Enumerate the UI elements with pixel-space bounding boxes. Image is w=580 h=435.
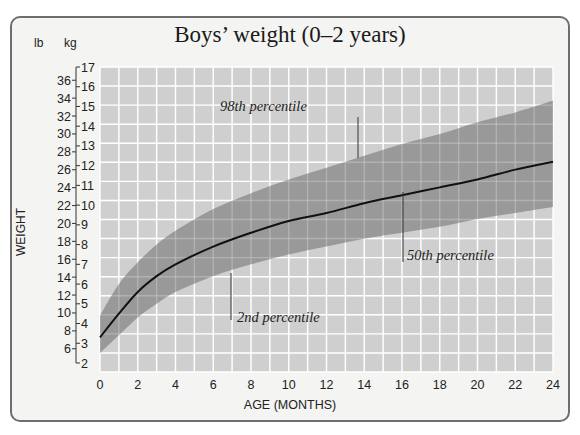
- y-tick-lb: 16: [57, 253, 71, 267]
- x-tick: 14: [357, 378, 371, 392]
- y-tick-kg: 8: [81, 238, 88, 252]
- y-tick-lb: 28: [57, 145, 71, 159]
- y-tick-lb: 6: [64, 342, 71, 356]
- y-tick-lb: 26: [57, 163, 71, 177]
- y-axis: 2345678910111213141516176810121416182022…: [57, 61, 95, 371]
- x-tick: 22: [508, 378, 522, 392]
- y-tick-lb: 12: [57, 289, 71, 303]
- y-tick-kg: 9: [81, 218, 88, 232]
- y-tick-lb: 20: [57, 217, 71, 231]
- y-tick-kg: 2: [81, 357, 88, 371]
- x-tick: 12: [320, 378, 334, 392]
- y-axis-title: WEIGHT: [14, 197, 28, 267]
- y-tick-kg: 5: [81, 297, 88, 311]
- unit-lb-label: lb: [34, 36, 43, 50]
- y-tick-lb: 30: [57, 127, 71, 141]
- y-tick-kg: 4: [81, 317, 88, 331]
- y-tick-lb: 10: [57, 306, 71, 320]
- chart-title: Boys’ weight (0–2 years): [0, 22, 580, 48]
- y-tick-lb: 36: [57, 74, 71, 88]
- x-tick: 6: [210, 378, 217, 392]
- p98-label: 98th percentile: [220, 98, 307, 114]
- y-tick-kg: 7: [81, 258, 88, 272]
- y-tick-kg: 17: [81, 61, 95, 75]
- y-tick-kg: 14: [81, 120, 95, 134]
- growth-chart: 2345678910111213141516176810121416182022…: [0, 0, 580, 435]
- x-tick: 10: [282, 378, 296, 392]
- y-tick-lb: 14: [57, 271, 71, 285]
- y-tick-kg: 3: [81, 337, 88, 351]
- y-tick-lb: 32: [57, 110, 71, 124]
- y-tick-lb: 24: [57, 181, 71, 195]
- x-axis: 024681012141618202224: [97, 378, 560, 392]
- x-tick: 18: [433, 378, 447, 392]
- y-tick-kg: 15: [81, 100, 95, 114]
- x-tick: 2: [134, 378, 141, 392]
- y-tick-lb: 8: [64, 324, 71, 338]
- x-tick: 0: [97, 378, 104, 392]
- p50-label: 50th percentile: [407, 247, 494, 263]
- y-tick-kg: 13: [81, 139, 95, 153]
- x-tick: 24: [546, 378, 560, 392]
- x-axis-title: AGE (MONTHS): [0, 398, 580, 412]
- y-tick-kg: 6: [81, 278, 88, 292]
- y-tick-kg: 10: [81, 199, 95, 213]
- y-tick-lb: 18: [57, 235, 71, 249]
- x-tick: 4: [172, 378, 179, 392]
- y-tick-kg: 12: [81, 159, 95, 173]
- y-tick-kg: 11: [81, 179, 94, 193]
- y-tick-lb: 34: [57, 92, 71, 106]
- p2-label: 2nd percentile: [237, 309, 320, 325]
- x-tick: 8: [248, 378, 255, 392]
- x-tick: 16: [395, 378, 409, 392]
- x-tick: 20: [471, 378, 485, 392]
- y-tick-lb: 22: [57, 199, 71, 213]
- y-tick-kg: 16: [81, 80, 95, 94]
- unit-kg-label: kg: [64, 36, 77, 50]
